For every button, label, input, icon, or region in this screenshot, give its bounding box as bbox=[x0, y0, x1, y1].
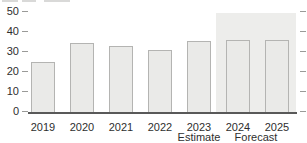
y-axis-tick-left bbox=[22, 71, 28, 72]
y-axis-tick-right bbox=[300, 111, 306, 112]
y-axis-tick-label: 50 bbox=[0, 6, 19, 17]
bar-2021 bbox=[109, 46, 133, 113]
bar-2023 bbox=[187, 41, 211, 113]
x-axis-line bbox=[28, 112, 297, 114]
x-axis-label-2020: 2020 bbox=[62, 121, 102, 133]
y-axis-tick-label: 20 bbox=[0, 66, 19, 77]
x-axis-label-2019: 2019 bbox=[23, 121, 63, 133]
y-axis-tick-right bbox=[300, 31, 306, 32]
clipped-header-fragment bbox=[22, 0, 36, 2]
forecast-period-label: Forecast bbox=[221, 132, 291, 143]
y-axis-tick-label: 30 bbox=[0, 46, 19, 57]
bar-2022 bbox=[148, 50, 172, 113]
y-axis-tick-left bbox=[22, 11, 28, 12]
x-axis-label-2021: 2021 bbox=[101, 121, 141, 133]
y-axis-tick-label: 40 bbox=[0, 26, 19, 37]
bar-chart: 010203040502019202020212022202320242025 … bbox=[0, 0, 307, 143]
bar-2020 bbox=[70, 43, 94, 113]
y-axis-tick-left bbox=[22, 91, 28, 92]
y-axis-tick-right bbox=[300, 51, 306, 52]
bar-2025 bbox=[265, 40, 289, 113]
y-axis-tick-right bbox=[300, 71, 306, 72]
y-axis-tick-left bbox=[22, 51, 28, 52]
y-axis-tick-label: 10 bbox=[0, 86, 19, 97]
y-axis-tick-label: 0 bbox=[0, 106, 19, 117]
y-axis-tick-right bbox=[300, 91, 306, 92]
bar-2024 bbox=[226, 40, 250, 113]
y-axis-tick-left bbox=[22, 31, 28, 32]
y-axis-tick-right bbox=[300, 11, 306, 12]
bar-2019 bbox=[31, 62, 55, 113]
clipped-header-fragment bbox=[44, 0, 70, 2]
clipped-header-fragment bbox=[2, 0, 18, 2]
